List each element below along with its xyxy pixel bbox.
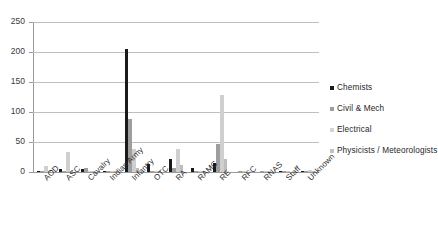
legend-swatch-icon xyxy=(330,86,334,90)
chart-legend: ChemistsCivil & MechElectricalPhysicists… xyxy=(330,78,430,162)
y-tick-label: 200 xyxy=(0,46,25,56)
legend-item: Electrical xyxy=(330,120,430,141)
y-tick-label: 50 xyxy=(0,136,25,146)
bar-group xyxy=(59,22,73,172)
legend-swatch-icon xyxy=(330,149,334,153)
y-tick-label: 150 xyxy=(0,76,25,86)
bar-group xyxy=(81,22,95,172)
bar-group xyxy=(147,22,161,172)
bar-group xyxy=(257,22,271,172)
legend-item: Physicists / Meteorologists xyxy=(330,141,430,162)
bar-group xyxy=(191,22,205,172)
bar-group xyxy=(103,22,117,172)
y-tick-label: 100 xyxy=(0,106,25,116)
y-tick-label: 0 xyxy=(0,166,25,176)
bar-group xyxy=(169,22,183,172)
legend-item: Civil & Mech xyxy=(330,99,430,120)
y-tick-label: 250 xyxy=(0,16,25,26)
bar-group xyxy=(213,22,227,172)
legend-swatch-icon xyxy=(330,128,334,132)
legend-label: Civil & Mech xyxy=(337,104,384,113)
bar-group xyxy=(301,22,315,172)
legend-label: Electrical xyxy=(337,125,372,134)
bar-group xyxy=(37,22,51,172)
plot-area xyxy=(33,22,319,172)
y-tick-mark xyxy=(29,172,33,173)
legend-label: Physicists / Meteorologists xyxy=(337,146,438,155)
bar-group xyxy=(235,22,249,172)
legend-swatch-icon xyxy=(330,107,334,111)
legend-item: Chemists xyxy=(330,78,430,99)
legend-label: Chemists xyxy=(337,83,372,92)
bar-group xyxy=(279,22,293,172)
bar xyxy=(66,152,70,172)
